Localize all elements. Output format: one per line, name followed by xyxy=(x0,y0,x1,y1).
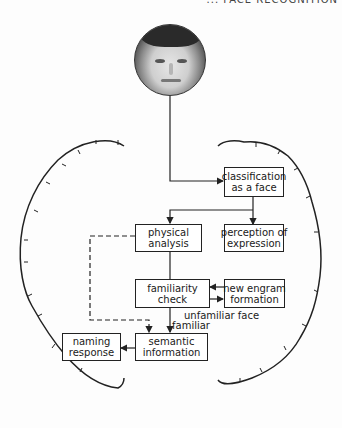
physical-analysis-box: physical analysis xyxy=(135,224,202,252)
right-eye xyxy=(177,59,187,63)
semantic-line1: semantic xyxy=(149,336,195,347)
classification-line1: classification xyxy=(222,171,287,182)
physical-line2: analysis xyxy=(148,238,189,249)
familiar-label: familiar xyxy=(172,320,210,331)
physical-line1: physical xyxy=(148,227,189,238)
hair-shape xyxy=(141,24,201,47)
new-engram-formation-box: new engram formation xyxy=(224,279,285,308)
familiarity-line2: check xyxy=(158,294,187,305)
photo-to-classification-arrow xyxy=(170,96,223,181)
to-physical-arrow xyxy=(170,210,253,223)
perception-line1: perception of xyxy=(221,227,287,238)
familiarity-line1: familiarity xyxy=(147,283,198,294)
naming-line2: response xyxy=(69,347,114,358)
naming-response-box: naming response xyxy=(62,333,121,361)
semantic-line2: information xyxy=(143,347,201,358)
left-eye xyxy=(155,59,165,63)
classification-box: classification as a face xyxy=(224,167,284,197)
perception-line2: expression xyxy=(227,238,281,249)
classification-line2: as a face xyxy=(231,182,276,193)
nose xyxy=(169,63,173,75)
familiarity-check-box: familiarity check xyxy=(135,279,210,308)
semantic-information-box: semantic information xyxy=(135,333,208,361)
engram-line1: new engram xyxy=(223,283,286,294)
engram-line2: formation xyxy=(230,294,279,305)
face-recognition-diagram: ... FACE RECOGNITION xyxy=(0,0,342,428)
perception-of-expression-box: perception of expression xyxy=(224,224,284,252)
naming-line1: naming xyxy=(73,336,111,347)
mouth xyxy=(161,79,181,82)
face-photo xyxy=(134,24,206,96)
